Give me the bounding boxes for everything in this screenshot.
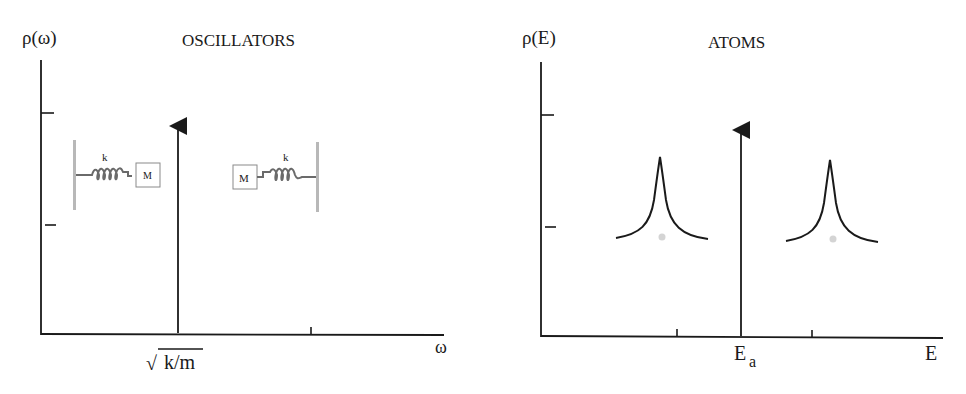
mass-label: M (239, 172, 249, 184)
lorentzian-peak-left (616, 157, 708, 239)
y-axis-label-rho-E: ρ(E) (522, 27, 556, 49)
x-axis (541, 336, 943, 338)
peak-center-dot (659, 234, 666, 241)
wall (316, 142, 319, 212)
svg-text:a: a (749, 353, 756, 370)
spring-constant-label: k (283, 151, 289, 163)
oscillator-right: M k (233, 142, 319, 212)
peak-center-dot (830, 236, 837, 243)
spring-constant-label: k (102, 151, 108, 163)
y-axis-label-rho-omega: ρ(ω) (22, 27, 57, 49)
mass-label: M (143, 170, 152, 181)
spring (76, 168, 132, 179)
wall (73, 140, 76, 210)
svg-text:√: √ (146, 352, 157, 374)
x-axis (41, 334, 444, 335)
diagram-canvas: ρ(ω) OSCILLATORS ω √ k/m k M M (0, 0, 966, 394)
atoms-panel: ρ(E) ATOMS E a E (522, 27, 943, 370)
spring (257, 169, 316, 180)
oscillators-panel: ρ(ω) OSCILLATORS ω √ k/m k M M (22, 27, 447, 374)
peak-label-sqrt-k-over-m: √ k/m (146, 349, 203, 374)
atoms-title: ATOMS (708, 33, 765, 52)
lorentzian-peak-right (786, 160, 878, 242)
oscillators-title: OSCILLATORS (182, 31, 295, 50)
peak-label-Ea: E a (734, 342, 756, 370)
x-axis-label-E: E (925, 342, 937, 364)
svg-text:E: E (734, 342, 746, 364)
svg-text:k/m: k/m (164, 351, 196, 373)
oscillator-left: k M (73, 140, 160, 210)
x-axis-label-omega: ω (435, 337, 447, 357)
